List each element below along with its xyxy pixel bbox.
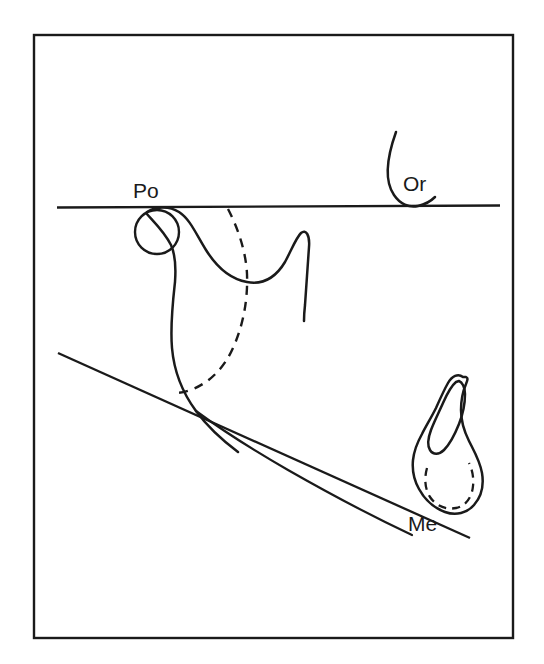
condyle-coronoid-outline [147,207,309,321]
lower-incisor-outline [428,381,465,454]
symphysis-inner-dashed [425,463,473,509]
posterior-outline-dashed [175,209,247,393]
landmark-label-porion: Po [133,180,159,201]
figure-border [34,35,513,638]
landmark-label-menton: Me [408,513,437,534]
frankfort-horizontal-line [57,206,500,208]
cephalometric-tracing-figure: Po Or Me [0,0,544,664]
orbitale-rim-curve [388,132,435,207]
landmark-label-orbitale: Or [403,173,426,194]
mandibular-plane-line [58,353,470,538]
posterior-ramus-border [146,213,238,452]
tracing-canvas [0,0,544,664]
